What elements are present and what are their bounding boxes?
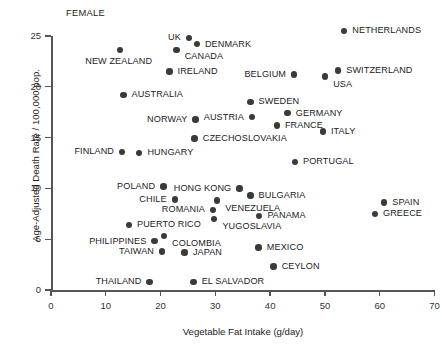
data-point-greece: [372, 211, 378, 217]
data-point-bulgaria: [247, 192, 253, 198]
data-point-panama: [256, 213, 262, 219]
data-point-portugal: [292, 159, 298, 165]
data-label-puerto-rico: PUERTO RICO: [137, 219, 201, 229]
data-point-hong-kong: [236, 185, 242, 191]
data-point-japan: [181, 249, 187, 255]
data-label-romania: ROMANIA: [162, 204, 205, 214]
data-label-belgium: BELGIUM: [244, 69, 286, 79]
data-point-netherlands: [341, 28, 347, 34]
data-label-ceylon: CEYLON: [282, 261, 320, 271]
data-point-switzerland: [335, 67, 341, 73]
x-tick-mark-50: [324, 290, 325, 296]
x-tick-mark-10: [105, 290, 106, 296]
y-tick-label-25: 25: [19, 30, 41, 41]
x-tick-mark-40: [269, 290, 270, 296]
x-tick-label-30: 30: [203, 300, 227, 311]
data-label-new-zealand: NEW ZEALAND: [85, 56, 152, 66]
data-label-italy: ITALY: [331, 126, 355, 136]
data-point-usa: [322, 73, 328, 79]
data-label-denmark: DENMARK: [205, 39, 251, 49]
data-label-hungary: HUNGARY: [147, 147, 193, 157]
data-point-spain: [381, 199, 387, 205]
x-tick-label-60: 60: [368, 300, 392, 311]
data-point-yugoslavia: [211, 216, 217, 222]
data-point-norway: [192, 116, 198, 122]
data-label-australia: AUSTRALIA: [132, 89, 183, 99]
data-label-switzerland: SWITZERLAND: [346, 65, 412, 75]
data-label-ireland: IRELAND: [178, 66, 218, 76]
data-point-hungary: [136, 150, 142, 156]
data-point-canada: [173, 47, 179, 53]
data-point-el-salvador: [190, 279, 196, 285]
data-point-finland: [119, 149, 125, 155]
data-point-ireland: [166, 68, 172, 74]
y-tick-label-0: 0: [19, 284, 41, 295]
y-tick-mark-15: [45, 137, 51, 138]
panel-label: FEMALE: [66, 8, 105, 18]
data-point-venezuela: [214, 197, 220, 203]
data-label-sweden: SWEDEN: [259, 96, 300, 106]
y-tick-mark-25: [45, 35, 51, 36]
data-label-portugal: PORTUGAL: [303, 156, 354, 166]
data-point-czechoslovakia: [191, 135, 197, 141]
data-point-puerto-rico: [126, 222, 132, 228]
data-label-greece: GREECE: [383, 208, 422, 218]
data-label-mexico: MEXICO: [267, 242, 303, 252]
data-label-chile: CHILE: [139, 194, 166, 204]
x-tick-mark-70: [434, 290, 435, 296]
data-point-italy: [320, 128, 326, 134]
data-label-norway: NORWAY: [147, 114, 187, 124]
data-label-poland: POLAND: [117, 181, 155, 191]
data-point-new-zealand: [117, 47, 123, 53]
data-label-germany: GERMANY: [296, 108, 343, 118]
x-tick-mark-30: [215, 290, 216, 296]
data-point-ceylon: [270, 263, 276, 269]
data-label-usa: USA: [333, 79, 352, 89]
data-label-spain: SPAIN: [392, 197, 419, 207]
data-point-taiwan: [159, 248, 165, 254]
x-axis-line: [51, 290, 435, 292]
data-point-belgium: [291, 71, 297, 77]
x-tick-mark-60: [379, 290, 380, 296]
data-point-sweden: [247, 99, 253, 105]
data-point-france: [274, 122, 280, 128]
x-tick-label-10: 10: [94, 300, 118, 311]
data-point-poland: [160, 183, 166, 189]
scatter-chart: FEMALE 0510152025 010203040506070 NETHER…: [0, 0, 442, 347]
data-label-thailand: THAILAND: [96, 276, 142, 286]
data-point-denmark: [194, 41, 200, 47]
data-label-yugoslavia: YUGOSLAVIA: [222, 221, 281, 231]
x-tick-label-0: 0: [39, 300, 63, 311]
data-label-japan: JAPAN: [193, 247, 222, 257]
data-label-taiwan: TAIWAN: [119, 246, 154, 256]
y-tick-mark-10: [45, 188, 51, 189]
data-label-netherlands: NETHERLANDS: [352, 25, 421, 35]
data-point-germany: [284, 110, 290, 116]
data-label-finland: FINLAND: [74, 146, 114, 156]
x-tick-label-40: 40: [258, 300, 282, 311]
y-tick-mark-20: [45, 86, 51, 87]
data-label-hong-kong: HONG KONG: [174, 183, 232, 193]
data-label-panama: PANAMA: [267, 210, 305, 220]
x-tick-label-20: 20: [149, 300, 173, 311]
data-point-thailand: [146, 279, 152, 285]
data-point-mexico: [255, 244, 261, 250]
y-axis-line: [51, 36, 53, 291]
x-axis-title: Vegetable Fat Intake (g/day): [51, 326, 435, 337]
data-label-el-salvador: EL SALVADOR: [202, 276, 265, 286]
data-label-czechoslovakia: CZECHOSLOVAKIA: [203, 133, 287, 143]
data-label-canada: CANADA: [185, 51, 224, 61]
x-tick-label-70: 70: [423, 300, 442, 311]
data-point-australia: [120, 92, 126, 98]
data-label-bulgaria: BULGARIA: [259, 190, 306, 200]
data-point-colombia: [161, 233, 167, 239]
data-point-uk: [186, 35, 192, 41]
data-point-austria: [249, 114, 255, 120]
y-tick-mark-5: [45, 239, 51, 240]
x-tick-mark-20: [160, 290, 161, 296]
data-label-austria: AUSTRIA: [204, 112, 244, 122]
data-label-france: FRANCE: [285, 120, 323, 130]
data-label-uk: UK: [168, 32, 181, 42]
data-point-chile: [172, 196, 178, 202]
x-tick-mark-0: [50, 290, 51, 296]
